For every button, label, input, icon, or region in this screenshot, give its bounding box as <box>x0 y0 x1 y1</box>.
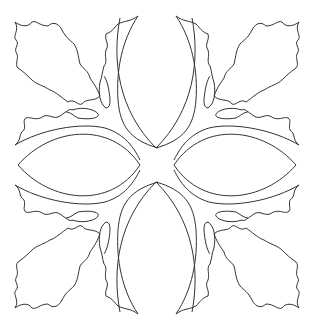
corner-holly-top-left <box>15 16 158 160</box>
petal-bottom <box>117 182 195 312</box>
petal-left <box>18 134 140 196</box>
corner-holly-bottom-left <box>15 170 158 314</box>
petal-top <box>117 18 195 148</box>
petal-right <box>174 134 296 196</box>
corner-holly-bottom-right <box>156 170 299 314</box>
holly-petal-pattern <box>0 0 314 330</box>
corner-holly-top-right <box>156 16 299 160</box>
